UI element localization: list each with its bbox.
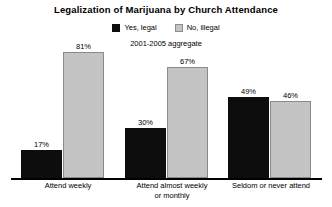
bar-no-illegal-seldom-or-never-attend: 46% [270,101,311,178]
plot-area: 17% 81% 30% 67% 49% 46% [11,52,322,178]
legend-entry-yes-legal: Yes, legal [112,23,156,32]
x-axis-label-attend-weekly: Attend weekly [16,181,120,191]
bar-group-seldom-or-never-attend: 49% 46% [228,52,322,178]
bar-yes-legal-seldom-or-never-attend: 49% [228,97,269,178]
legend-swatch-icon-yes-legal [112,24,120,32]
x-axis-label-line: Attend weekly [16,181,120,191]
x-axis-label-attend-almost-weekly-or-monthly: Attend almost weekly or monthly [120,181,224,200]
bar-value-label: 81% [76,42,91,51]
bar-group-attend-almost-weekly-or-monthly: 30% 67% [125,52,219,178]
bar-no-illegal-attend-almost-weekly-or-monthly: 67% [167,67,208,178]
legend-entry-no-illegal: No, illegal [175,23,220,32]
chart-subtitle: 2001-2005 aggregate [0,39,332,48]
x-axis-label-seldom-or-never-attend: Seldom or never attend [219,181,323,191]
x-axis-label-line: Seldom or never attend [219,181,323,191]
bar-value-label: 49% [241,87,256,96]
chart-title: Legalization of Marijuana by Church Atte… [0,4,332,15]
x-axis-category-labels: Attend weekly Attend almost weekly or mo… [11,181,322,207]
x-axis-label-line: or monthly [120,191,224,201]
bar-value-label: 46% [283,91,298,100]
bar-chart: Legalization of Marijuana by Church Atte… [0,0,332,207]
legend-label-no-illegal: No, illegal [187,23,220,32]
bar-yes-legal-attend-almost-weekly-or-monthly: 30% [125,128,166,178]
legend-swatch-icon-no-illegal [175,24,183,32]
bar-yes-legal-attend-weekly: 17% [21,150,62,178]
legend-label-yes-legal: Yes, legal [124,23,156,32]
x-axis-label-line: Attend almost weekly [120,181,224,191]
chart-legend: Yes, legal No, illegal [0,23,332,32]
bar-no-illegal-attend-weekly: 81% [63,52,104,178]
bar-value-label: 67% [180,57,195,66]
bar-group-attend-weekly: 17% 81% [21,52,115,178]
x-axis-baseline [11,178,322,180]
bar-value-label: 17% [34,140,49,149]
bar-value-label: 30% [138,118,153,127]
